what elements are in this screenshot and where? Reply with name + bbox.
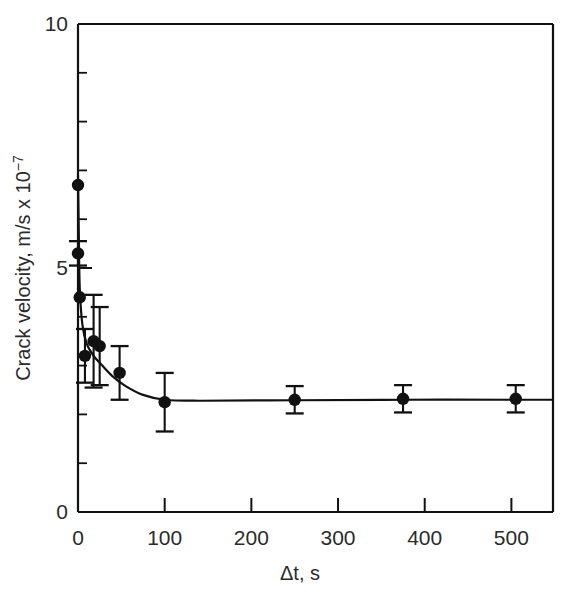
data-point-marker	[74, 291, 86, 303]
svg-text:Crack velocity, m/s x 10−7: Crack velocity, m/s x 10−7	[10, 155, 34, 381]
x-tick-label: 400	[407, 526, 442, 549]
chart-figure: 0510 0100200300400500 Δt, s Crack veloci…	[0, 0, 571, 601]
data-point-marker	[113, 367, 125, 379]
crack-velocity-scatter-plot: 0510 0100200300400500 Δt, s Crack veloci…	[0, 0, 571, 601]
data-point-marker	[510, 393, 522, 405]
x-tick-label: 0	[72, 526, 84, 549]
data-point-marker	[72, 179, 84, 191]
data-point-marker	[72, 247, 84, 259]
x-tick-label: 100	[147, 526, 182, 549]
data-point-marker	[93, 340, 105, 352]
fitted-curve	[78, 175, 553, 400]
data-point-marker	[288, 394, 300, 406]
data-point-marker	[79, 350, 91, 362]
plot-frame	[78, 24, 553, 512]
y-axis-tick-labels: 0510	[45, 12, 68, 523]
y-tick-label: 0	[56, 500, 68, 523]
x-tick-label: 200	[234, 526, 269, 549]
x-axis-ticks	[78, 498, 511, 512]
x-tick-label: 500	[494, 526, 529, 549]
data-point-marker	[158, 396, 170, 408]
y-tick-label: 10	[45, 12, 68, 35]
x-axis-tick-labels: 0100200300400500	[72, 526, 529, 549]
y-axis-title: Crack velocity, m/s x 10−7	[10, 155, 34, 381]
x-tick-label: 300	[321, 526, 356, 549]
y-tick-label: 5	[56, 256, 68, 279]
data-point-marker	[397, 393, 409, 405]
x-axis-title: Δt, s	[280, 562, 320, 584]
data-points	[72, 179, 522, 409]
